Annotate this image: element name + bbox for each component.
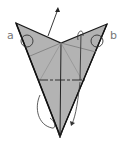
label-a: a [7,30,14,41]
paper-kite-shape [16,23,107,136]
fold-up-arrow [48,9,58,36]
origami-diagram [0,0,124,144]
arrow-head-icon [55,7,60,12]
label-b: b [110,30,117,41]
